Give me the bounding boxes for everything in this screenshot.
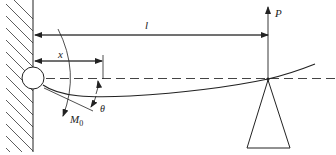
moment-arc [58,29,70,116]
tangent-line [44,88,93,111]
moment-label: M0 [69,113,83,128]
position-label: x [57,48,63,60]
angle-arc-up [96,81,98,94]
hinge-circle [22,67,44,89]
angle-label: θ [100,103,105,114]
angle-arc-down [91,96,96,107]
beam-diagram: l x P M0 θ [0,0,336,155]
support-triangle [247,80,290,148]
support-pivot [266,77,269,80]
force-label: P [274,7,282,19]
length-label: l [145,19,148,31]
deflected-beam [43,64,315,97]
